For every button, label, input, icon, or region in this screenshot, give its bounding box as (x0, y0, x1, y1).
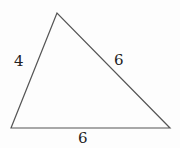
triangle-shape (0, 0, 180, 148)
side-label-right: 6 (114, 53, 124, 68)
side-label-left: 4 (14, 54, 24, 69)
triangle-diagram: 4 6 6 (0, 0, 180, 148)
side-label-bottom: 6 (78, 131, 88, 146)
